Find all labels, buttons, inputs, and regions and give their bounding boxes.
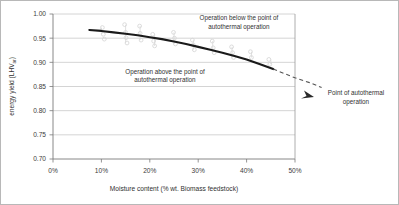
annotation-above-point: Operation above the point of autothermal… [125, 68, 205, 85]
x-tick-label: 0% [48, 167, 58, 174]
scatter-point [172, 30, 176, 34]
annotation-point-line2: operation [343, 98, 370, 106]
y-tick-label: 0.85 [33, 83, 46, 90]
scatter-point [210, 39, 214, 43]
y-tick-labels: 1.00 0.95 0.90 0.85 0.80 0.75 0.70 [33, 10, 46, 162]
scatter-point [230, 45, 234, 49]
arrow-head-icon [301, 91, 314, 99]
annotation-below-point-line1: Operation below the point of [200, 14, 279, 22]
scatter-point [151, 32, 155, 36]
x-tick-labels: 0% 10% 20% 30% 40% 50% [48, 167, 301, 174]
annotation-below-point: Operation below the point of autothermal… [200, 14, 279, 31]
svg-text:energy yield (LHVar): energy yield (LHVar) [8, 57, 17, 116]
scatter-point [267, 58, 271, 62]
scatter-point [231, 51, 235, 55]
energy-yield-chart: 1.00 0.95 0.90 0.85 0.80 0.75 0.70 0% 10… [1, 1, 399, 205]
annotation-point-of-autothermal-operation: Point of autothermal operation [328, 89, 384, 106]
scatter-point [124, 36, 128, 40]
y-axis-title-main: energy yield (LHV [8, 63, 16, 116]
y-tick-label: 1.00 [33, 10, 46, 17]
x-tick-label: 30% [192, 167, 205, 174]
annotation-above-point-line1: Operation above the point of [125, 68, 205, 76]
y-tick-label: 0.75 [33, 131, 46, 138]
x-tick-label: 10% [95, 167, 108, 174]
annotation-above-point-line2: autothermal operation [134, 76, 196, 84]
chart-figure: 1.00 0.95 0.90 0.85 0.80 0.75 0.70 0% 10… [0, 0, 399, 205]
annotation-point-line1: Point of autothermal [328, 89, 384, 96]
y-tick-label: 0.95 [33, 35, 46, 42]
extrapolation-dashed-line [273, 69, 321, 87]
x-tick-label: 50% [288, 167, 301, 174]
y-tick-label: 0.90 [33, 59, 46, 66]
scatter-point [249, 50, 253, 54]
x-tick-label: 40% [240, 167, 253, 174]
y-tick-label: 0.80 [33, 107, 46, 114]
y-axis-title: energy yield (LHVar) [8, 57, 17, 116]
annotation-below-point-line2: autothermal operation [208, 23, 270, 31]
energy-yield-curve [89, 30, 273, 69]
scatter-point [101, 32, 105, 36]
x-axis-title: Moisture content (% wt. Biomass feedstoc… [110, 185, 238, 193]
scatter-point [138, 24, 142, 28]
y-axis-title-tail: ) [8, 57, 16, 59]
y-tick-label: 0.70 [33, 155, 46, 162]
y-tick-marks [50, 14, 54, 159]
x-tick-label: 20% [143, 167, 156, 174]
x-tick-marks [53, 159, 295, 163]
